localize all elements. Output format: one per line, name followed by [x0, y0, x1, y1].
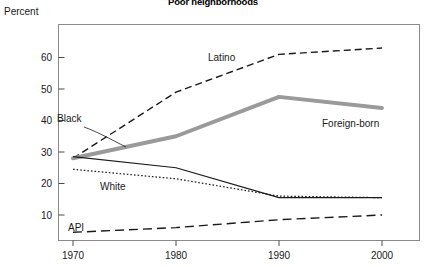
series-label-black: Black	[57, 113, 82, 124]
y-tick-label: 30	[41, 147, 53, 158]
y-tick-label: 50	[41, 84, 53, 95]
y-tick-label: 20	[41, 178, 53, 189]
chart-container: Poor neighborhoods Percent 60 50 40 30 2…	[0, 0, 426, 267]
y-tick-label: 60	[41, 52, 53, 63]
data-series-layer	[73, 48, 382, 232]
y-tick-label: 10	[41, 210, 53, 221]
plot-area: 60 50 40 30 20 10 1970 1980 1990 2000	[0, 0, 426, 267]
series-label-latino: Latino	[208, 52, 236, 63]
x-tick-label: 2000	[371, 250, 394, 261]
series-line-api	[73, 215, 382, 232]
x-axis-ticks	[73, 241, 382, 247]
x-tick-label: 1980	[165, 250, 188, 261]
y-tick-label: 40	[41, 115, 53, 126]
series-label-api: API	[68, 222, 84, 233]
series-annotations: Latino Foreign-born Black White API	[57, 52, 379, 233]
series-label-foreign-born: Foreign-born	[322, 118, 379, 129]
x-tick-label: 1990	[268, 250, 291, 261]
y-axis-ticks	[59, 58, 65, 216]
series-label-white: White	[100, 181, 126, 192]
x-axis-tick-labels: 1970 1980 1990 2000	[62, 250, 394, 261]
x-tick-label: 1970	[62, 250, 85, 261]
y-axis-tick-labels: 60 50 40 30 20 10	[41, 52, 53, 221]
